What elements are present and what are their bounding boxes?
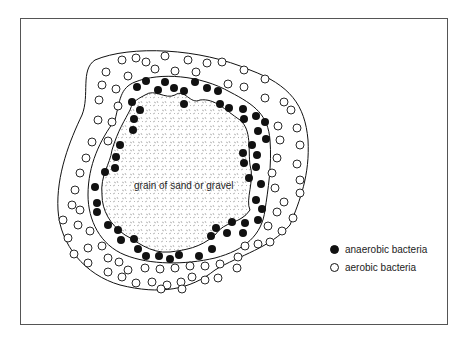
grain-label: grain of sand or gravel xyxy=(134,180,234,191)
open-circle-icon xyxy=(330,263,339,272)
legend-item-anaerobic: anaerobic bacteria xyxy=(330,240,427,258)
legend: anaerobic bacteria aerobic bacteria xyxy=(330,240,427,276)
legend-item-aerobic: aerobic bacteria xyxy=(330,258,427,276)
biofilm-diagram xyxy=(0,0,467,344)
filled-circle-icon xyxy=(330,245,339,254)
legend-label: aerobic bacteria xyxy=(345,262,416,273)
legend-label: anaerobic bacteria xyxy=(345,244,427,255)
